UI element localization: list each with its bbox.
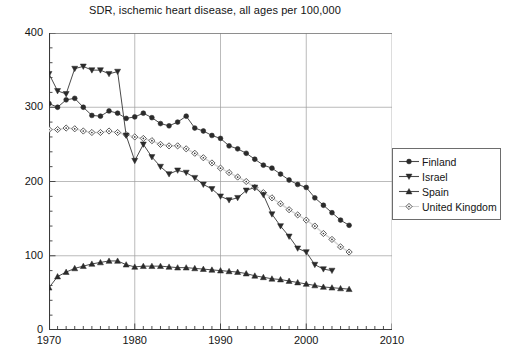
data-point-open-diamond	[49, 126, 52, 132]
data-point-filled-circle	[244, 151, 249, 156]
data-point-filled-circle	[227, 143, 232, 148]
x-tick-label: 1990	[201, 334, 241, 346]
legend-item-israel[interactable]: Israel	[398, 169, 496, 184]
x-tick-label: 1970	[29, 334, 69, 346]
data-point-filled-circle	[235, 146, 240, 151]
data-point-filled-triangle-down	[329, 268, 335, 273]
data-point-open-diamond	[192, 150, 198, 156]
y-tick-label: 100	[9, 249, 43, 261]
x-tick-label: 2000	[286, 334, 326, 346]
data-point-filled-circle	[210, 133, 215, 138]
data-point-filled-circle	[49, 101, 51, 106]
data-point-open-diamond	[226, 169, 232, 175]
series-line-united-kingdom	[49, 128, 349, 252]
chart-title: SDR, ischemic heart disease, all ages pe…	[0, 4, 430, 16]
chart-legend: FinlandIsraelSpainUnited Kingdom	[392, 148, 501, 220]
filled-triangle-up-icon	[398, 185, 420, 198]
legend-item-label: Israel	[420, 171, 448, 183]
data-point-filled-triangle-down	[295, 246, 301, 251]
data-point-filled-triangle-down	[140, 142, 146, 147]
data-point-open-diamond	[132, 134, 138, 140]
data-point-filled-circle	[55, 105, 60, 110]
data-point-filled-circle	[72, 96, 77, 101]
data-point-filled-circle	[124, 116, 129, 121]
data-point-filled-circle	[98, 114, 103, 119]
data-point-filled-circle	[132, 115, 137, 120]
data-point-filled-triangle-down	[63, 91, 69, 96]
legend-item-label: United Kingdom	[420, 201, 497, 213]
data-point-filled-triangle-down	[106, 71, 112, 76]
data-point-filled-triangle-down	[183, 170, 189, 175]
data-point-open-diamond	[72, 126, 78, 132]
data-point-filled-circle	[295, 182, 300, 187]
data-point-filled-circle	[330, 210, 335, 215]
data-point-open-diamond	[115, 129, 121, 135]
filled-triangle-down-icon	[398, 170, 420, 183]
data-point-open-diamond	[54, 126, 60, 132]
data-point-filled-triangle-up	[55, 274, 61, 279]
legend-item-united-kingdom[interactable]: United Kingdom	[398, 199, 496, 214]
data-point-filled-circle	[115, 111, 120, 116]
legend-item-finland[interactable]: Finland	[398, 154, 496, 169]
data-point-filled-circle	[158, 121, 163, 126]
data-point-open-diamond	[106, 128, 112, 134]
data-point-filled-circle	[89, 113, 94, 118]
data-point-filled-circle	[107, 109, 112, 114]
data-point-open-diamond	[149, 138, 155, 144]
data-point-filled-triangle-down	[260, 192, 266, 197]
data-point-filled-circle	[304, 185, 309, 190]
data-point-filled-circle	[201, 129, 206, 134]
data-point-open-diamond	[235, 174, 241, 180]
series-markers-israel	[49, 64, 335, 274]
x-tick-label: 1980	[115, 334, 155, 346]
legend-item-label: Spain	[420, 186, 449, 198]
series-line-israel	[49, 66, 332, 270]
data-point-open-diamond	[63, 125, 69, 131]
data-point-filled-circle	[287, 178, 292, 183]
data-point-filled-triangle-up	[63, 269, 69, 274]
data-point-filled-circle	[347, 223, 352, 228]
x-tick-label: 2010	[372, 334, 412, 346]
data-point-filled-circle	[141, 111, 146, 116]
data-point-filled-circle	[312, 195, 317, 200]
data-point-filled-triangle-down	[303, 250, 309, 255]
open-diamond-icon	[398, 200, 420, 213]
legend-item-spain[interactable]: Spain	[398, 184, 496, 199]
chart-page: SDR, ischemic heart disease, all ages pe…	[0, 0, 513, 364]
data-point-open-diamond	[89, 129, 95, 135]
data-point-open-diamond	[175, 143, 181, 149]
data-point-filled-triangle-down	[226, 198, 232, 203]
data-point-filled-circle	[150, 115, 155, 120]
data-point-filled-circle	[407, 159, 412, 164]
data-point-filled-circle	[270, 166, 275, 171]
data-point-filled-triangle-down	[312, 262, 318, 267]
data-point-filled-circle	[261, 163, 266, 168]
data-point-filled-circle	[81, 105, 86, 110]
y-tick-label: 400	[9, 26, 43, 38]
data-point-open-diamond	[157, 141, 163, 147]
data-point-filled-circle	[175, 120, 180, 125]
data-point-open-diamond	[166, 143, 172, 149]
data-point-filled-triangle-down	[132, 158, 138, 163]
data-point-filled-triangle-down	[166, 172, 172, 177]
y-tick-label: 200	[9, 175, 43, 187]
data-point-open-diamond	[140, 135, 146, 141]
data-point-filled-circle	[192, 126, 197, 131]
data-point-open-diamond	[80, 128, 86, 134]
legend-item-label: Finland	[420, 156, 456, 168]
data-point-filled-triangle-down	[218, 194, 224, 199]
data-point-filled-circle	[64, 97, 69, 102]
data-point-filled-circle	[184, 114, 189, 119]
data-point-filled-triangle-up	[123, 262, 129, 267]
data-point-filled-circle	[218, 136, 223, 141]
data-point-open-diamond	[97, 129, 103, 135]
data-point-filled-circle	[167, 123, 172, 128]
data-point-filled-circle	[252, 157, 257, 162]
series-line-finland	[49, 98, 349, 225]
y-tick-label: 300	[9, 100, 43, 112]
data-point-filled-circle	[338, 218, 343, 223]
plot-area	[49, 33, 392, 330]
filled-circle-icon	[398, 155, 420, 168]
data-point-filled-triangle-down	[200, 182, 206, 187]
data-point-filled-circle	[278, 172, 283, 177]
